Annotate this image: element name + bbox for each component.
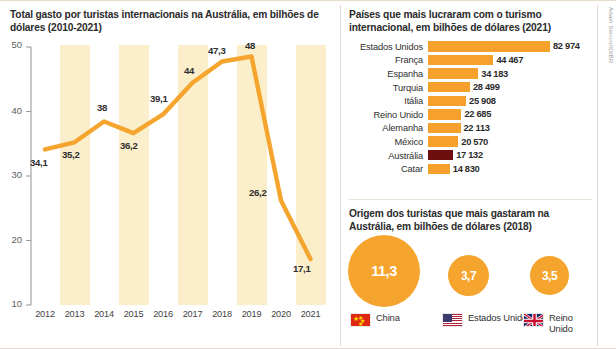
x-tick-label: 2012 xyxy=(29,309,61,319)
bubble-cell-uk: 3,5 xyxy=(522,235,606,313)
x-tick-label: 2021 xyxy=(295,309,327,319)
infographic-root: Total gasto por turistas internacionais … xyxy=(0,0,616,349)
bar-value-label: 22 113 xyxy=(464,123,490,133)
x-tick-label: 2018 xyxy=(206,309,238,319)
bar-fill xyxy=(428,68,478,78)
x-tick-label: 2016 xyxy=(147,309,179,319)
data-point-label: 44 xyxy=(184,65,194,76)
x-tick-label: 2013 xyxy=(59,309,91,319)
table-row: Reino Unido 22 685 xyxy=(340,108,598,122)
table-row: Alemanha 22 113 xyxy=(340,122,598,136)
bar-fill-highlight xyxy=(428,150,453,160)
bar-value-label: 14 830 xyxy=(453,164,480,174)
data-point-label: 47,3 xyxy=(208,45,225,56)
legend-item-usa: Estados Unidos xyxy=(442,313,532,327)
table-row: Turquia 28 499 xyxy=(340,81,598,95)
bar-track: 14 830 xyxy=(428,162,598,176)
bar-track: 28 499 xyxy=(428,81,598,95)
bubble-usa: 3,7 xyxy=(448,255,489,296)
bar-chart-section: Países que mais lucraram com o turismo i… xyxy=(340,1,598,199)
line-chart-section: Total gasto por turistas internacionais … xyxy=(0,1,340,349)
bar-value-label: 82 974 xyxy=(553,41,580,51)
bar-fill xyxy=(428,96,466,106)
bubble-chart-title: Origem dos turistas que mais gastaram na… xyxy=(349,208,593,233)
table-row: França 44 467 xyxy=(340,54,598,68)
bubble-chart-plot: 11,3 3,7 3,5 xyxy=(340,235,598,313)
y-tick-label: 50 xyxy=(0,39,22,50)
horizontal-divider xyxy=(348,199,592,200)
data-point-label: 39,1 xyxy=(150,93,167,104)
data-point-label: 34,1 xyxy=(30,157,47,168)
legend-label: Reino Unido xyxy=(549,313,598,334)
y-tick-label: 10 xyxy=(0,298,22,309)
bubble-value-label: 3,5 xyxy=(542,269,557,283)
bubble-value-label: 11,3 xyxy=(371,263,396,279)
data-point-label: 48 xyxy=(245,40,255,51)
table-row: Itália 25 908 xyxy=(340,94,598,108)
bar-fill xyxy=(428,109,461,119)
y-tick-label: 40 xyxy=(0,105,22,116)
bar-fill xyxy=(428,55,493,65)
bar-category-label: México xyxy=(340,137,428,147)
data-point-label: 26,2 xyxy=(249,187,266,198)
bar-category-label: Alemanha xyxy=(340,123,428,133)
table-row: México 20 570 xyxy=(340,135,598,149)
bar-fill xyxy=(428,41,550,51)
china-flag-icon: ★ ★ ★ ★ xyxy=(350,313,371,327)
bubble-value-label: 3,7 xyxy=(461,269,476,283)
uk-flag-icon xyxy=(523,313,544,327)
bar-value-label: 34 183 xyxy=(481,69,508,79)
x-tick-label: 2014 xyxy=(88,309,120,319)
bar-value-label: 28 499 xyxy=(473,82,500,92)
bar-value-label: 17 132 xyxy=(456,150,483,160)
bar-category-label: Reino Unido xyxy=(340,110,428,120)
data-point-label: 35,2 xyxy=(62,149,79,160)
bar-category-label: Itália xyxy=(340,96,428,106)
x-tick-label: 2015 xyxy=(118,309,150,319)
legend-label: China xyxy=(376,313,400,324)
x-tick-label: 2017 xyxy=(177,309,209,319)
bar-category-label: Espanha xyxy=(340,69,428,79)
line-chart-title: Total gasto por turistas internacionais … xyxy=(10,9,332,34)
bar-fill xyxy=(428,123,461,133)
legend-item-uk: Reino Unido xyxy=(523,313,598,334)
bar-fill xyxy=(428,164,450,174)
bar-category-label: Austrália xyxy=(340,151,428,161)
bar-category-label: Turquia xyxy=(340,83,428,93)
x-tick-label: 2020 xyxy=(265,309,297,319)
bubble-cell-usa: 3,7 xyxy=(440,235,524,313)
bar-track: 25 908 xyxy=(428,94,598,108)
line-series-svg xyxy=(0,45,340,345)
bubble-uk: 3,5 xyxy=(530,256,569,295)
bar-category-label: França xyxy=(340,55,428,65)
bar-track: 22 685 xyxy=(428,108,598,122)
bubble-chart-section: Origem dos turistas que mais gastaram na… xyxy=(340,201,598,349)
bar-track: 82 974 xyxy=(428,40,598,54)
bar-chart-list: Estados Unidos 82 974 França 44 467 Espa… xyxy=(340,40,598,176)
bar-fill xyxy=(428,82,470,92)
table-row: Catar 14 830 xyxy=(340,162,598,176)
bar-value-label: 44 467 xyxy=(496,55,523,65)
bar-track: 22 113 xyxy=(428,122,598,136)
table-row: Espanha 34 183 xyxy=(340,67,598,81)
bar-category-label: Estados Unidos xyxy=(340,42,428,52)
bar-track: 34 183 xyxy=(428,67,598,81)
bar-value-label: 22 685 xyxy=(464,109,491,119)
data-point-label: 38 xyxy=(97,102,107,113)
x-tick-label: 2019 xyxy=(236,309,268,319)
table-row: Austrália 17 132 xyxy=(340,149,598,163)
y-tick-label: 30 xyxy=(0,169,22,180)
bubble-china: 11,3 xyxy=(348,235,420,307)
bubble-cell-china: 11,3 xyxy=(348,235,432,313)
legend-item-china: ★ ★ ★ ★ China xyxy=(350,313,400,327)
y-tick-label: 20 xyxy=(0,234,22,245)
table-row: Estados Unidos 82 974 xyxy=(340,40,598,54)
bar-track: 17 132 xyxy=(428,149,598,163)
bar-value-label: 20 570 xyxy=(461,137,488,147)
bar-track: 20 570 xyxy=(428,135,598,149)
bar-chart-title: Países que mais lucraram com o turismo i… xyxy=(349,9,593,34)
line-chart-plot: 50 40 30 20 10 2012 2013 2014 2015 2016 … xyxy=(0,45,340,345)
data-point-label: 36,2 xyxy=(120,140,137,151)
bar-fill xyxy=(428,136,458,146)
bar-category-label: Catar xyxy=(340,164,428,174)
